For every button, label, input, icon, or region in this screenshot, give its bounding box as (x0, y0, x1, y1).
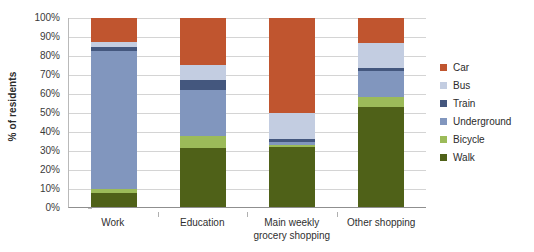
legend-label: Underground (453, 116, 511, 127)
legend-item-bus[interactable]: Bus (440, 76, 534, 94)
x-axis-tick-mark (158, 212, 159, 217)
x-axis-label-line: Other shopping (337, 216, 427, 229)
stacked-bar-chart: % of residents 100%90%80%70%60%50%40%30%… (0, 0, 534, 252)
y-axis-tick-label: 40% (40, 127, 60, 137)
legend-swatch-icon (440, 136, 447, 143)
x-axis-label-line: Education (158, 216, 248, 229)
bar-segment-car[interactable] (358, 18, 404, 43)
bar-slot (69, 18, 158, 207)
legend-swatch-icon (440, 154, 447, 161)
y-axis-title: % of residents (2, 0, 24, 212)
bar-segment-walk[interactable] (269, 147, 315, 207)
legend-label: Train (453, 98, 475, 109)
legend-swatch-icon (440, 118, 447, 125)
bar-slot (337, 18, 426, 207)
bar-segment-car[interactable] (269, 18, 315, 113)
bar-segment-train[interactable] (180, 80, 226, 89)
legend-item-car[interactable]: Car (440, 58, 534, 76)
bar-segment-walk[interactable] (180, 148, 226, 207)
y-axis-tick-label: 70% (40, 70, 60, 80)
legend-item-bicycle[interactable]: Bicycle (440, 130, 534, 148)
stacked-bar[interactable] (269, 18, 315, 207)
legend: CarBusTrainUndergroundBicycleWalk (440, 58, 534, 166)
stacked-bar[interactable] (91, 18, 137, 207)
x-axis-label-line: Main weekly (247, 216, 337, 229)
bar-segment-bus[interactable] (269, 113, 315, 139)
y-axis-tick-mark (88, 208, 92, 209)
stacked-bar[interactable] (180, 18, 226, 207)
bar-segment-car[interactable] (180, 18, 226, 65)
bar-segment-bus[interactable] (358, 43, 404, 69)
legend-label: Car (453, 62, 469, 73)
x-axis-tick-mark (247, 212, 248, 217)
legend-label: Walk (453, 152, 475, 163)
bar-segment-bicycle[interactable] (358, 97, 404, 106)
bar-slot (158, 18, 247, 207)
bar-segment-bus[interactable] (180, 65, 226, 80)
bar-segment-walk[interactable] (91, 193, 137, 207)
y-axis-tick-label: 50% (40, 108, 60, 118)
x-axis-label: Work (68, 212, 158, 252)
legend-swatch-icon (440, 100, 447, 107)
bar-segment-underground[interactable] (180, 90, 226, 136)
y-axis-tick-label: 0% (46, 203, 60, 213)
bar-segment-bicycle[interactable] (180, 136, 226, 148)
bar-segment-car[interactable] (91, 18, 137, 42)
bar-segment-underground[interactable] (358, 71, 404, 97)
x-axis-tick-mark (337, 212, 338, 217)
legend-item-underground[interactable]: Underground (440, 112, 534, 130)
y-axis-tick-label: 10% (40, 184, 60, 194)
legend-label: Bus (453, 80, 470, 91)
y-axis-tick-label: 20% (40, 165, 60, 175)
x-axis-label: Other shopping (337, 212, 427, 252)
x-axis-label-line: grocery shopping (247, 229, 337, 242)
legend-swatch-icon (440, 64, 447, 71)
y-axis-tick-label: 80% (40, 51, 60, 61)
bar-segment-walk[interactable] (358, 107, 404, 207)
x-axis-category-labels: WorkEducationMain weeklygrocery shopping… (68, 212, 426, 252)
bar-slot (248, 18, 337, 207)
y-axis-tick-labels: 100%90%80%70%60%50%40%30%20%10%0% (24, 13, 64, 213)
legend-swatch-icon (440, 82, 447, 89)
x-axis-label: Main weeklygrocery shopping (247, 212, 337, 252)
plot-area (68, 18, 426, 208)
x-axis-label-line: Work (68, 216, 158, 229)
y-axis-tick-label: 60% (40, 89, 60, 99)
y-axis-tick-label: 90% (40, 32, 60, 42)
stacked-bar[interactable] (358, 18, 404, 207)
x-axis-label: Education (158, 212, 248, 252)
y-axis-tick-label: 30% (40, 146, 60, 156)
bars-layer (69, 18, 426, 207)
y-axis-title-text: % of residents (8, 71, 19, 141)
y-axis-tick-label: 100% (34, 13, 60, 23)
bar-segment-underground[interactable] (91, 51, 137, 189)
legend-label: Bicycle (453, 134, 485, 145)
legend-item-walk[interactable]: Walk (440, 148, 534, 166)
legend-item-train[interactable]: Train (440, 94, 534, 112)
